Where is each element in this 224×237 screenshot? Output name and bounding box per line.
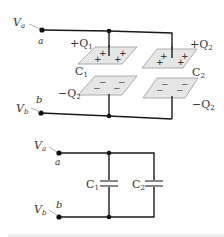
bottom-node-a-label: a [55,157,60,167]
c1-bottom-charge-label: −Q2 [58,87,81,101]
c1-minus-sign: − [93,83,101,93]
c2-minus-sign: − [176,85,184,95]
c2-bottom-charge-label: −Q2 [192,98,215,112]
c1-minus-sign: − [113,83,121,93]
bottom-junction-a [107,151,112,156]
c2-plus-sign: + [156,57,164,67]
bottom-node-b-terminal [56,214,61,219]
top-junction-a [107,29,112,34]
bottom-diagram: Va a C1 C2 Vb b [34,139,163,220]
top-vb-leader [31,108,40,112]
bottom-va-leader [49,147,57,152]
bottom-top-rail [59,153,154,180]
node-b-terminal [38,110,43,115]
top-diagram: Va a + + + + +Q1 C1 − − − − −Q2 + + + + [13,16,215,119]
c1-top-charge-label: +Q1 [70,37,93,51]
footer-divider [8,234,224,237]
bottom-node-a-terminal [56,150,61,155]
c2-top-charge-label: +Q2 [190,38,213,52]
top-va-label: Va [13,16,25,30]
top-vb-label: Vb [16,102,29,116]
bottom-junction-b [107,215,112,220]
node-a-terminal [39,27,44,32]
bottom-node-b-label: b [56,199,62,210]
c2-bottom-plate [143,78,198,98]
top-junction-b [107,114,112,119]
parallel-capacitors-diagram: Va a + + + + +Q1 C1 − − − − −Q2 + + + + [0,0,224,237]
top-node-b-label: b [36,94,42,105]
bottom-c2-label: C2 [132,178,145,192]
bottom-vb-label: Vb [34,203,47,217]
c2-top-plate [142,49,197,68]
top-wire-b [41,113,172,119]
c2-plus-sign: + [177,57,185,67]
bottom-vb-leader [49,210,57,215]
bottom-c1-label: C1 [86,178,99,192]
c1-plus-sign: + [94,54,102,64]
bottom-va-label: Va [34,139,46,153]
top-va-leader [29,24,40,29]
top-node-a-label: a [38,36,43,46]
c1-plus-sign: + [114,54,122,64]
c2-minus-sign: − [156,85,164,95]
c1-label: C1 [75,65,88,79]
